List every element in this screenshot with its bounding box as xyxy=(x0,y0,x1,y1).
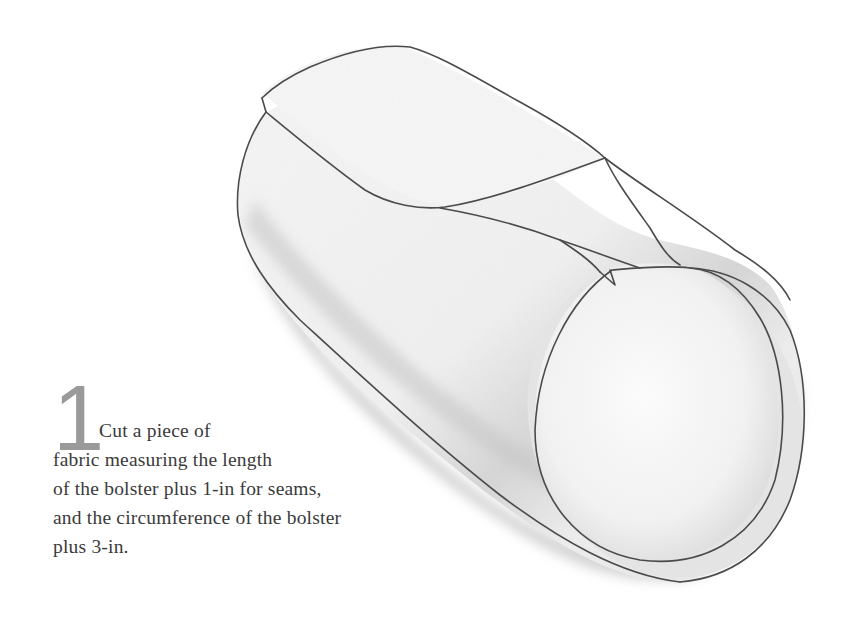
instruction-line: Cut a piece of xyxy=(53,416,433,445)
instruction-line: plus 3-in. xyxy=(53,532,433,561)
instruction-line: and the circumference of the bolster xyxy=(53,503,433,532)
instruction-line: fabric measuring the length xyxy=(53,445,433,474)
step-instructions: Cut a piece of fabric measuring the leng… xyxy=(53,416,433,561)
instruction-line: of the bolster plus 1-in for seams, xyxy=(53,474,433,503)
